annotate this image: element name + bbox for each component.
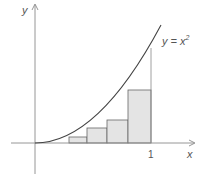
x-axis-label: x bbox=[186, 148, 193, 160]
rectangle-3 bbox=[107, 120, 128, 143]
curve-label-exponent: 2 bbox=[185, 34, 190, 41]
riemann-sum-diagram: y x 1 y = x2 bbox=[0, 0, 207, 181]
curve-label-base: y = x bbox=[161, 35, 186, 47]
y-axis-label: y bbox=[21, 4, 29, 16]
rectangle-2 bbox=[87, 128, 107, 143]
curve-label: y = x2 bbox=[161, 34, 190, 47]
rectangle-1 bbox=[69, 137, 87, 143]
rectangle-4 bbox=[128, 90, 151, 143]
riemann-rectangles bbox=[69, 90, 151, 143]
x-tick-label-1: 1 bbox=[148, 149, 154, 160]
